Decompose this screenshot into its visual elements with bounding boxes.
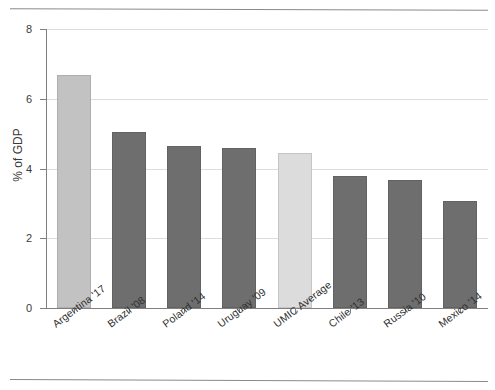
y-tick: 2 [0, 238, 46, 239]
y-axis-line [46, 29, 47, 309]
bar [388, 180, 422, 308]
bar [333, 176, 367, 308]
y-tick-label: 0 [0, 303, 32, 314]
y-tick: 6 [0, 99, 46, 100]
y-tick-label: 8 [0, 24, 32, 35]
bar [112, 132, 146, 308]
bar [278, 153, 312, 308]
y-tick-label: 6 [0, 94, 32, 105]
y-tick: 8 [0, 29, 46, 30]
bar-chart: 02468 % of GDP Argentina '17Brazil '08Po… [0, 0, 495, 390]
bar [167, 146, 201, 308]
y-tick-label: 2 [0, 233, 32, 244]
x-axis-line [46, 308, 488, 309]
y-axis-title: % of GDP [11, 115, 25, 195]
bar [222, 148, 256, 308]
gridline [47, 99, 488, 100]
y-tick: 0 [0, 308, 46, 309]
bar [57, 75, 91, 308]
gridline [47, 29, 488, 30]
